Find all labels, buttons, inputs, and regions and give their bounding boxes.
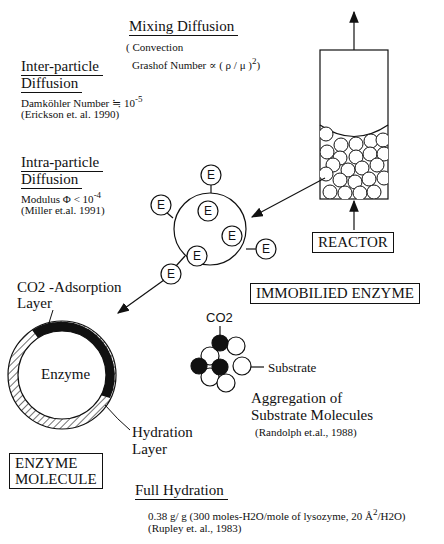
packed-beads xyxy=(319,127,391,200)
aggregation-label: Aggregation of xyxy=(251,390,342,407)
zoom-arrow-2-icon xyxy=(118,280,164,313)
mixing-convection: ( Convection xyxy=(126,40,183,54)
svg-text:E: E xyxy=(193,249,201,263)
inter-particle-title: Inter-particle xyxy=(21,58,103,76)
reactor-vessel xyxy=(319,12,391,230)
svg-text:E: E xyxy=(157,198,165,212)
grashof-number: Grashof Number ∝ ( ρ / μ )2) xyxy=(132,54,260,72)
intra-particle-title: Intra-particle xyxy=(21,154,103,172)
zoom-arrow-icon xyxy=(252,178,325,217)
svg-text:E: E xyxy=(207,168,215,182)
substrate-label: Substrate xyxy=(268,359,316,376)
co2-adsorption-label: CO2 -Adsorption xyxy=(17,279,122,296)
substrate-cluster xyxy=(191,326,264,392)
aggregation-label-2: Substrate Molecules xyxy=(251,407,373,424)
rupley-reference: (Rupley et. al., 1983) xyxy=(148,521,241,535)
randolph-reference: (Randolph et.al., 1988) xyxy=(255,425,357,439)
enzyme-molecule-label: ENZYMEMOLECULE xyxy=(9,453,103,489)
inter-particle-title-2: Diffusion xyxy=(21,75,82,93)
hydration-layer-label: Hydration xyxy=(132,424,193,441)
mixing-diffusion-title: Mixing Diffusion xyxy=(129,18,238,36)
immobilized-enzyme-label: IMMOBILIED ENZYME xyxy=(250,283,420,304)
svg-text:E: E xyxy=(167,267,175,281)
full-hydration-title: Full Hydration xyxy=(135,482,228,500)
svg-text:E: E xyxy=(228,229,236,243)
co2-adsorption-label-2: Layer xyxy=(17,295,52,312)
intra-particle-reference: (Miller et.al. 1991) xyxy=(21,203,105,217)
co2-label: CO2 xyxy=(206,310,233,325)
svg-text:E: E xyxy=(262,242,270,256)
intra-particle-title-2: Diffusion xyxy=(21,171,82,189)
enzyme-core-label: Enzyme xyxy=(41,366,90,383)
svg-text:E: E xyxy=(204,204,212,218)
hydration-layer-label-2: Layer xyxy=(132,441,167,458)
reactor-label: REACTOR xyxy=(312,232,394,253)
inter-particle-reference: (Erickson et. al. 1990) xyxy=(21,107,119,121)
